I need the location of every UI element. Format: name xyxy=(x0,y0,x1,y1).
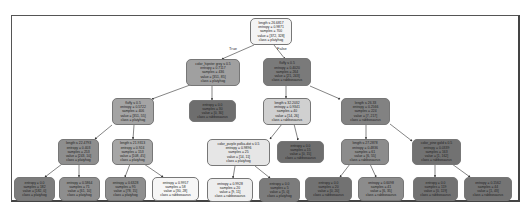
tree-node: length ≤ 21.9313 entropy = 0.924 samples… xyxy=(112,139,153,165)
tree-leaf: entropy = 0.6098 samples = 41 value = [6… xyxy=(358,177,404,201)
tree-leaf: entropy = 0.6328 samples = 95 value = [7… xyxy=(105,177,146,201)
node-line: class = rabbosaurus xyxy=(155,193,196,197)
node-line: class = platyhog xyxy=(189,79,237,83)
tree-node: entropy = 0.0 samples = 30 value = [0, 3… xyxy=(189,100,236,122)
tree-node: color_purple polka-dot ≤ 0.5 entropy = 0… xyxy=(207,139,270,166)
node-line: class = platyhog xyxy=(61,158,96,162)
node-line: class = rabbosaurus xyxy=(344,118,387,122)
tree-node-root: length ≤ 26.6817 entropy = 0.9871 sample… xyxy=(250,18,292,45)
tree-node: length ≤ 27.2878 entropy = 0.4836 sample… xyxy=(341,139,389,165)
node-line: class = rabbosaurus xyxy=(415,158,458,162)
tree-leaf: entropy = 0.0 samples = 119 value = [0, … xyxy=(413,177,458,201)
tree-node: color_hipster grey ≤ 0.5 entropy = 0.711… xyxy=(186,59,240,86)
node-line: class = platyhog xyxy=(253,38,289,42)
tree-leaf: entropy = 0.0 samples = 5 value = [5, 0]… xyxy=(259,178,300,202)
node-line: class = rabbosaurus xyxy=(416,193,455,197)
tree-node: color_pine gold ≤ 0.5 entropy = 0.0339 s… xyxy=(412,139,461,165)
tree-node: length ≤ 32.2032 entropy = 0.9341 sample… xyxy=(263,98,311,125)
tree-node: entropy = 0.0 samples = 15 value = [0, 1… xyxy=(277,141,324,163)
node-line: class = platyhog xyxy=(17,193,52,197)
node-line: class = platyhog xyxy=(108,193,143,197)
node-line: class = platyhog xyxy=(62,193,97,197)
tree-node: length ≤ 22.4793 entropy = 0.403 samples… xyxy=(58,139,99,165)
node-line: class = platyhog xyxy=(210,159,267,163)
tree-node: length ≤ 26.33 entropy = 0.2566 samples … xyxy=(341,98,390,125)
edge-label-false: False xyxy=(277,46,287,51)
tree-node: fluffy ≤ 0.5 entropy = 0.5722 samples = … xyxy=(112,98,154,125)
node-line: class = platyhog xyxy=(262,194,297,198)
node-line: class = rabbosaurus xyxy=(266,78,308,82)
tree-leaf: entropy = 0.1562 samples = 44 value = [1… xyxy=(464,177,512,201)
node-line: class = rabbosaurus xyxy=(210,194,250,198)
node-line: class = rabbosaurus xyxy=(280,156,321,160)
tree-leaf: entropy = 0.5864 samples = 71 value = [6… xyxy=(59,177,100,201)
node-line: class = rabbosaurus xyxy=(266,118,308,122)
edge-label-true: True xyxy=(229,46,237,51)
node-line: class = rabbosaurus xyxy=(192,115,233,119)
node-line: class = platyhog xyxy=(115,118,151,122)
node-line: class = rabbosaurus xyxy=(344,158,386,162)
tree-node: fluffy ≤ 0.5 entropy = 0.4020 samples = … xyxy=(263,58,311,86)
tree-leaf: entropy = 0.0 samples = 182 value = [182… xyxy=(14,177,55,201)
node-line: class = rabbosaurus xyxy=(361,193,401,197)
tree-leaf: entropy = 0.9957 samples = 58 value = [3… xyxy=(152,177,199,201)
node-line: class = platyhog xyxy=(115,158,150,162)
tree-leaf: entropy = 0.0 samples = 20 value = [0, 2… xyxy=(305,177,352,201)
node-line: class = rabbosaurus xyxy=(308,193,349,197)
tree-leaf: entropy = 0.9928 samples = 20 value = [9… xyxy=(207,178,253,202)
node-line: class = rabbosaurus xyxy=(467,193,509,197)
